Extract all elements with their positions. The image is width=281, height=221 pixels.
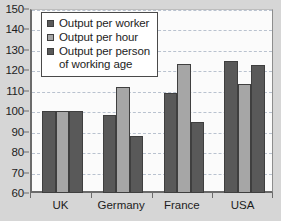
- y-tick-label-130: 130: [5, 44, 24, 56]
- y-tick-mark-100: [24, 111, 29, 112]
- legend-item: Output per hour: [47, 31, 150, 44]
- chart-legend: Output per worker Output per hour Output…: [41, 12, 158, 77]
- y-tick-mark-80: [24, 152, 29, 153]
- y-tick-mark-60: [24, 193, 29, 194]
- x-axis: UKGermanyFranceUSA: [30, 193, 273, 221]
- bar-group-france: [154, 9, 215, 193]
- y-tick-label-150: 150: [5, 3, 24, 15]
- y-tick-label-110: 110: [6, 85, 24, 97]
- bar-germany-series-3: [130, 136, 144, 193]
- bar-usa-series-2: [238, 84, 252, 193]
- y-tick-label-70: 70: [12, 167, 24, 179]
- bar-uk-series-2: [56, 111, 70, 193]
- x-tick-label-france: France: [164, 199, 200, 211]
- y-tick-mark-110: [24, 90, 29, 91]
- y-tick-label-60: 60: [12, 187, 24, 199]
- x-tick-label-usa: USA: [231, 199, 255, 211]
- legend-item: Output per person of working age: [47, 45, 150, 71]
- bar-france-series-2: [177, 64, 191, 193]
- bar-france-series-1: [164, 93, 178, 193]
- y-tick-label-80: 80: [12, 146, 24, 158]
- bar-usa-series-3: [251, 65, 265, 193]
- bar-usa-series-1: [224, 61, 238, 193]
- bar-uk-series-3: [69, 111, 83, 193]
- y-tick-label-90: 90: [12, 126, 24, 138]
- x-tick-label-germany: Germany: [97, 199, 144, 211]
- bar-germany-series-1: [103, 115, 117, 193]
- y-tick-mark-70: [24, 172, 29, 173]
- y-tick-mark-150: [24, 9, 29, 10]
- legend-swatch-output-per-worker: [47, 20, 54, 27]
- bar-chart: 15014013012011010090807060 UKGermanyFran…: [0, 0, 281, 221]
- y-tick-label-120: 120: [5, 64, 24, 76]
- legend-label-output-per-worker: Output per worker: [59, 17, 149, 30]
- bar-uk-series-1: [42, 111, 56, 193]
- legend-swatch-output-per-hour: [47, 34, 54, 41]
- y-axis: 15014013012011010090807060: [0, 9, 30, 193]
- bar-group-usa: [214, 9, 275, 193]
- x-tick-mark-3: [212, 193, 213, 198]
- y-tick-mark-140: [24, 29, 29, 30]
- x-tick-mark-4: [272, 193, 273, 198]
- bar-germany-series-2: [116, 87, 130, 193]
- x-tick-mark-1: [91, 193, 92, 198]
- y-tick-label-140: 140: [5, 23, 24, 35]
- bar-france-series-3: [191, 122, 205, 193]
- legend-swatch-output-per-person-of-working-age: [47, 48, 54, 55]
- legend-item: Output per worker: [47, 17, 150, 30]
- legend-label-output-per-person-of-working-age: Output per person of working age: [59, 45, 150, 71]
- y-tick-mark-90: [24, 131, 29, 132]
- y-tick-label-100: 100: [5, 105, 24, 117]
- x-tick-label-uk: UK: [52, 199, 68, 211]
- x-tick-mark-2: [152, 193, 153, 198]
- y-tick-mark-130: [24, 49, 29, 50]
- legend-label-output-per-hour: Output per hour: [59, 31, 138, 44]
- y-tick-mark-120: [24, 70, 29, 71]
- x-tick-mark-0: [30, 193, 31, 198]
